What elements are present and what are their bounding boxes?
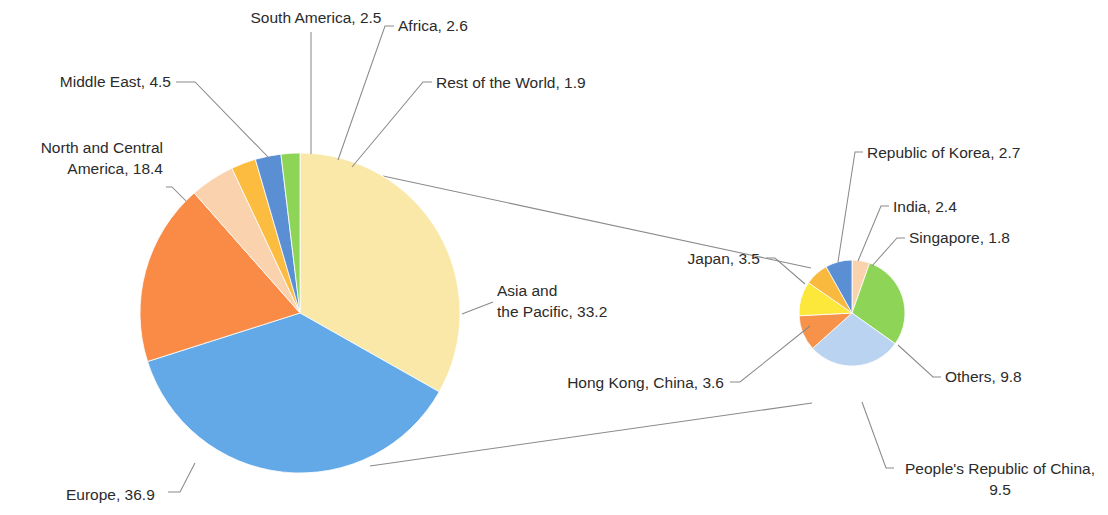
- secondary-label-india: India, 2.4: [893, 198, 957, 215]
- main-label-europe: Europe, 36.9: [66, 486, 155, 503]
- main-label-africa: Africa, 2.6: [398, 17, 468, 34]
- secondary-label-japan: Japan, 3.5: [688, 250, 760, 267]
- main-leader-europe: [168, 463, 195, 492]
- secondary-leader-japan: [766, 258, 805, 284]
- secondary-pie: [799, 260, 905, 366]
- main-label-rest-of-the-world: Rest of the World, 1.9: [436, 74, 586, 91]
- secondary-leader-hong-kong-china: [730, 326, 810, 382]
- chart-canvas: Asia andthe Pacific, 33.2Europe, 36.9Nor…: [0, 0, 1108, 515]
- secondary-label-others: Others, 9.8: [945, 368, 1022, 385]
- secondary-label-people-s-republic-of-china: People's Republic of China,9.5: [905, 460, 1095, 498]
- main-leader-middle-east: [176, 82, 269, 158]
- main-leader-africa: [338, 26, 394, 160]
- secondary-leader-others: [898, 345, 941, 377]
- main-label-middle-east: Middle East, 4.5: [60, 73, 171, 90]
- secondary-label-singapore: Singapore, 1.8: [909, 229, 1010, 246]
- secondary-leader-singapore: [872, 238, 905, 266]
- main-pie: [140, 153, 460, 473]
- secondary-label-hong-kong-china: Hong Kong, China, 3.6: [567, 374, 724, 391]
- secondary-label-republic-of-korea: Republic of Korea, 2.7: [867, 144, 1020, 161]
- pie-of-pie-chart: Asia andthe Pacific, 33.2Europe, 36.9Nor…: [0, 0, 1108, 515]
- main-label-north-and-central-america: North and CentralAmerica, 18.4: [41, 139, 164, 177]
- main-leader-rest-of-the-world: [352, 82, 432, 167]
- main-leader-north-and-central-america: [166, 187, 186, 201]
- main-label-asia-and-the-pacific: Asia andthe Pacific, 33.2: [497, 282, 607, 320]
- main-label-south-america: South America, 2.5: [251, 9, 382, 26]
- secondary-leader-republic-of-korea: [838, 152, 863, 262]
- main-leader-asia-and-the-pacific: [462, 302, 493, 314]
- bottom-connector: [370, 403, 812, 466]
- secondary-leader-people-s-republic-of-china: [862, 402, 894, 468]
